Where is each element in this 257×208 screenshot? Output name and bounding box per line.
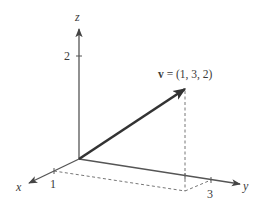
x-tick-label: 1 [50,177,56,191]
vector-v-arrow [79,89,185,159]
z-axis-label: z [74,10,80,24]
vector-components: = (1, 3, 2) [164,68,213,81]
y-axis-label: y [242,179,249,193]
y-tick-label: 3 [207,187,213,201]
z-tick-label: 2 [64,49,70,63]
vector-diagram: z 2 x 1 y 3 v = (1, 3, 2) [0,0,257,208]
y-axis [79,159,240,184]
x-axis-label: x [15,180,22,194]
z-axis [76,29,82,159]
vector-label: v = (1, 3, 2) [158,68,213,81]
